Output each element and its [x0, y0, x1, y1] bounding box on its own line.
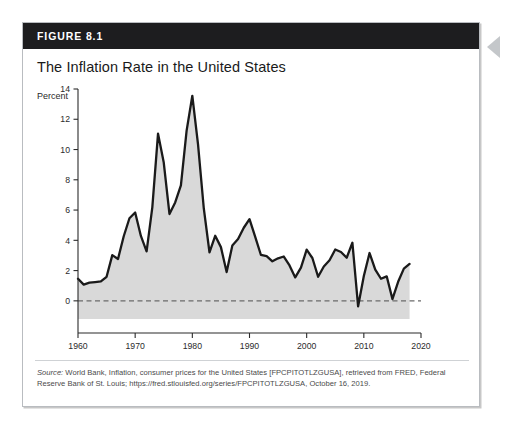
chart-area-fill [78, 96, 410, 319]
svg-text:10: 10 [60, 145, 70, 155]
svg-text:1960: 1960 [68, 341, 87, 351]
figure-header-bar: FIGURE 8.1 [23, 23, 479, 49]
svg-text:12: 12 [60, 114, 70, 124]
source-divider [35, 360, 469, 361]
svg-text:2020: 2020 [411, 341, 430, 351]
figure-card: FIGURE 8.1 The Inflation Rate in the Uni… [22, 22, 480, 407]
svg-text:4: 4 [65, 236, 70, 246]
svg-text:1980: 1980 [183, 341, 202, 351]
y-axis-tick-labels: 02468101214 [60, 84, 78, 306]
svg-text:1990: 1990 [240, 341, 259, 351]
figure-number-label: FIGURE 8.1 [37, 30, 103, 42]
inflation-area-chart: 02468101214 1960197019801990200020102020… [23, 81, 481, 351]
svg-text:2010: 2010 [354, 341, 373, 351]
side-pointer-arrow-icon [487, 36, 500, 58]
svg-text:0: 0 [65, 296, 70, 306]
svg-text:2: 2 [65, 266, 70, 276]
source-prefix: Source: [37, 368, 63, 377]
svg-text:14: 14 [60, 84, 70, 94]
svg-text:6: 6 [65, 205, 70, 215]
chart-plot-area: 02468101214 1960197019801990200020102020… [23, 81, 481, 351]
svg-text:2000: 2000 [297, 341, 316, 351]
source-note: Source: World Bank, Inflation, consumer … [37, 367, 469, 389]
svg-text:1970: 1970 [126, 341, 145, 351]
figure-title: The Inflation Rate in the United States [37, 59, 286, 75]
source-text: World Bank, Inflation, consumer prices f… [37, 368, 446, 388]
svg-text:8: 8 [65, 175, 70, 185]
x-axis-tick-labels: 1960197019801990200020102020 [68, 333, 430, 351]
